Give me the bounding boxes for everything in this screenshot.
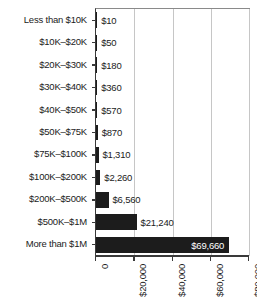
- bar-value-label: $2,260: [100, 172, 132, 183]
- bar-rows: $10$50$180$360$570$870$1,310$2,260$6,560…: [96, 9, 249, 256]
- bar-value-label: $50: [97, 37, 116, 48]
- x-axis-tick-label: 0: [99, 264, 110, 269]
- bar-value-label: $21,240: [137, 217, 174, 228]
- bar-chart: Less than $10K$10K–$20K$20K–$30K$30K–$40…: [0, 0, 257, 304]
- gridline: [249, 9, 250, 256]
- bar-value-label: $10: [97, 15, 116, 26]
- bar-value-label: $180: [97, 60, 121, 71]
- bar-row: $1,310: [96, 144, 249, 166]
- category-label: $200K–$500K: [0, 188, 91, 210]
- bar-row: $180: [96, 54, 249, 76]
- category-label: $500K–$1M: [0, 210, 91, 232]
- bar[interactable]: [96, 214, 137, 230]
- bar-row: $69,660: [96, 234, 249, 256]
- x-axis-tick-label: $20,000: [137, 264, 148, 297]
- bar-value-label: $69,660: [191, 239, 224, 250]
- x-axis-tick-mark: [133, 257, 134, 261]
- bar-row: $21,240: [96, 211, 249, 233]
- category-label: $40K–$50K: [0, 98, 91, 120]
- plot-area: $10$50$180$360$570$870$1,310$2,260$6,560…: [95, 8, 250, 256]
- bar-row: $2,260: [96, 166, 249, 188]
- x-axis-tick-label: $60,000: [214, 264, 225, 297]
- bar[interactable]: [96, 192, 109, 208]
- bar[interactable]: [96, 102, 97, 118]
- bar-row: $6,560: [96, 189, 249, 211]
- bar[interactable]: $69,660: [96, 237, 229, 253]
- x-axis-ticks: 0$20,000$40,000$60,000$80,000: [95, 257, 249, 304]
- bar[interactable]: [96, 125, 98, 141]
- bar-value-label: $1,310: [99, 149, 131, 160]
- bar-value-label: $360: [97, 82, 121, 93]
- bar-row: $360: [96, 76, 249, 98]
- bar[interactable]: [96, 170, 100, 186]
- bar[interactable]: [96, 80, 97, 96]
- bar[interactable]: [96, 12, 97, 28]
- category-label: $75K–$100K: [0, 143, 91, 165]
- category-label: More than $1M: [0, 233, 91, 255]
- category-label: $20K–$30K: [0, 53, 91, 75]
- category-label: $100K–$200K: [0, 165, 91, 187]
- category-label: $30K–$40K: [0, 75, 91, 97]
- bar[interactable]: [96, 57, 97, 73]
- bar-value-label: $870: [98, 127, 122, 138]
- x-axis-tick-mark: [172, 257, 173, 261]
- x-axis-tick-mark: [210, 257, 211, 261]
- x-axis-tick-mark: [248, 257, 249, 261]
- x-axis-tick-label: $40,000: [176, 264, 187, 297]
- category-label: $50K–$75K: [0, 120, 91, 142]
- bar-row: $50: [96, 31, 249, 53]
- x-axis-tick-label: $80,000: [252, 264, 257, 297]
- x-axis-tick-mark: [95, 257, 96, 261]
- category-label: Less than $10K: [0, 8, 91, 30]
- bar-value-label: $570: [97, 105, 121, 116]
- category-axis-labels: Less than $10K$10K–$20K$20K–$30K$30K–$40…: [0, 8, 91, 255]
- bar-value-label: $6,560: [109, 194, 141, 205]
- bar-row: $10: [96, 9, 249, 31]
- bar-row: $570: [96, 99, 249, 121]
- category-label: $10K–$20K: [0, 30, 91, 52]
- bar-row: $870: [96, 121, 249, 143]
- bar[interactable]: [96, 35, 97, 51]
- bar[interactable]: [96, 147, 99, 163]
